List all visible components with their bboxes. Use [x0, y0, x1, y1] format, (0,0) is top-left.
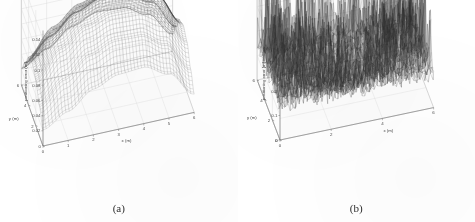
- panel-a-x-axis-label: x (m): [122, 138, 132, 143]
- panel-a-x-tick: 5: [168, 121, 171, 126]
- panel-a-z-tick: 0.08: [32, 83, 41, 88]
- panel-a-z-tick: 0.02: [32, 128, 41, 133]
- panel-b-z-tick: 0.2: [271, 89, 278, 94]
- panel-b-x-tick: 4: [381, 121, 384, 126]
- panel-a-z-tick: 0.06: [32, 98, 41, 103]
- figure-container: average positioning error 0.020.040.060.…: [0, 0, 475, 222]
- panel-a-plot-area: 0.020.040.060.080.10.120.1401234560246x …: [0, 0, 238, 222]
- panel-a-x-tick: 6: [193, 115, 196, 120]
- panel-a-z-tick: 0.14: [32, 37, 41, 42]
- panel-a-x-tick: 0: [42, 149, 45, 154]
- panel-b-caption: (b): [238, 202, 475, 214]
- panel-b-x-tick: 6: [432, 110, 435, 115]
- panel-a-x-tick: 3: [117, 132, 120, 137]
- panel-b: average positioning error 00.10.20.30.40…: [238, 0, 475, 222]
- panel-a-x-tick: 2: [92, 137, 95, 142]
- panel-b-plot-area: 00.10.20.30.402460246x (m)y (m)positioni…: [238, 0, 475, 222]
- panel-b-surface-plot: 00.10.20.30.402460246x (m)y (m)positioni…: [238, 0, 475, 200]
- panel-a-y-axis-label: y (m): [9, 116, 19, 121]
- panel-b-z-axis-label: positioning error [m]: [261, 62, 266, 100]
- panel-a-x-tick: 4: [143, 126, 146, 131]
- panel-a: average positioning error 0.020.040.060.…: [0, 0, 238, 222]
- panel-a-caption: (a): [0, 202, 238, 214]
- panel-b-z-tick: 0.4: [271, 40, 278, 45]
- panel-a-surface-plot: 0.020.040.060.080.10.120.1401234560246x …: [0, 0, 237, 200]
- panel-b-y-tick: 6: [252, 78, 255, 83]
- panel-a-z-tick: 0.04: [32, 113, 41, 118]
- panel-b-y-axis-label: y (m): [246, 115, 256, 120]
- panel-b-x-axis-label: x (m): [383, 128, 393, 133]
- panel-b-x-tick: 0: [278, 143, 281, 148]
- panel-a-z-tick: 0.12: [32, 52, 41, 57]
- panel-b-z-tick: 0.3: [271, 64, 278, 69]
- panel-a-z-axis-label: positioning error (m): [23, 62, 28, 101]
- panel-b-z-tick: 0.1: [271, 113, 278, 118]
- panel-a-y-tick: 4: [24, 103, 27, 108]
- panel-a-y-tick: 6: [17, 83, 20, 88]
- panel-b-x-tick: 2: [329, 132, 332, 137]
- panel-a-x-tick: 1: [67, 143, 70, 148]
- panel-a-z-tick: 0.1: [35, 68, 41, 73]
- panel-b-y-tick: 2: [267, 118, 270, 123]
